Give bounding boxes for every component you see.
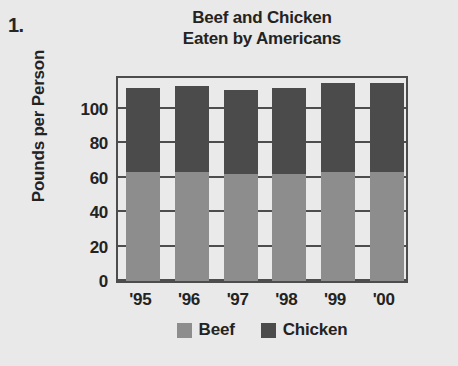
bar-group[interactable] xyxy=(224,90,258,281)
legend-entry-chicken[interactable]: Chicken xyxy=(261,320,348,340)
bar-segment-chicken[interactable] xyxy=(321,83,355,173)
plot-area xyxy=(116,76,408,283)
legend-label-beef: Beef xyxy=(199,320,235,340)
bar-group[interactable] xyxy=(175,86,209,281)
gridline xyxy=(118,279,406,281)
y-tick-label: 0 xyxy=(62,272,108,292)
y-tick-label: 100 xyxy=(62,100,108,120)
bar-segment-chicken[interactable] xyxy=(272,88,306,174)
bar-segment-chicken[interactable] xyxy=(370,83,404,173)
bar-segment-beef[interactable] xyxy=(224,174,258,281)
chart-legend: BeefChicken xyxy=(116,320,408,340)
bar-segment-beef[interactable] xyxy=(126,172,160,281)
gridline xyxy=(118,107,406,109)
x-tick-label: '98 xyxy=(262,290,311,310)
bar-segment-chicken[interactable] xyxy=(224,90,258,175)
x-tick-label: '96 xyxy=(165,290,214,310)
gridline xyxy=(118,141,406,143)
y-tick-label: 60 xyxy=(62,169,108,189)
bar-group[interactable] xyxy=(272,88,306,281)
chart-title: Beef and Chicken Eaten by Americans xyxy=(116,8,408,49)
legend-swatch-beef xyxy=(177,323,192,338)
legend-swatch-chicken xyxy=(261,323,276,338)
x-tick-label: '97 xyxy=(213,290,262,310)
plot-inner xyxy=(118,78,406,281)
bar-segment-beef[interactable] xyxy=(370,172,404,281)
x-tick-label: '99 xyxy=(311,290,360,310)
x-tick-label: '95 xyxy=(116,290,165,310)
y-tick-label: 80 xyxy=(62,134,108,154)
legend-label-chicken: Chicken xyxy=(283,320,348,340)
y-axis-title: Pounds per Person xyxy=(29,26,49,226)
chart-title-line-1: Beef and Chicken xyxy=(116,8,408,29)
chart-title-line-2: Eaten by Americans xyxy=(116,29,408,50)
bar-segment-beef[interactable] xyxy=(272,174,306,281)
bar-segment-chicken[interactable] xyxy=(126,88,160,173)
bar-group[interactable] xyxy=(321,83,355,281)
bar-group[interactable] xyxy=(126,88,160,281)
gridline xyxy=(118,176,406,178)
bar-group[interactable] xyxy=(370,83,404,281)
bar-segment-chicken[interactable] xyxy=(175,86,209,172)
x-tick-label: '00 xyxy=(359,290,408,310)
gridline xyxy=(118,245,406,247)
legend-entry-beef[interactable]: Beef xyxy=(177,320,235,340)
y-tick-label: 40 xyxy=(62,203,108,223)
y-tick-label: 20 xyxy=(62,238,108,258)
bar-segment-beef[interactable] xyxy=(321,172,355,281)
bar-segment-beef[interactable] xyxy=(175,172,209,281)
gridline xyxy=(118,210,406,212)
problem-number: 1. xyxy=(8,14,24,37)
